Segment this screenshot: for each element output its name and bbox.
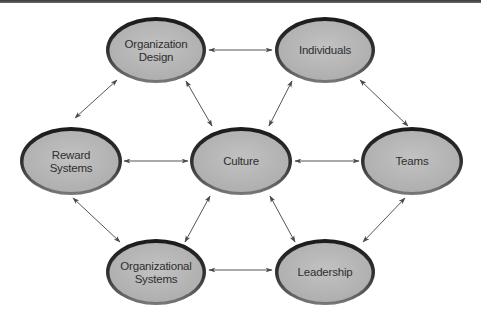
node-label: Teams — [396, 155, 429, 167]
node-label: Culture — [223, 155, 259, 167]
node-label: Systems — [135, 273, 178, 285]
double-arrow-individuals-to-culture — [269, 81, 292, 126]
double-arrow-reward-systems-to-organizational-systems — [73, 198, 120, 242]
node-teams: Teams — [361, 127, 463, 195]
node-culture: Culture — [190, 127, 292, 195]
double-arrow-culture-to-organizational-systems — [185, 196, 210, 242]
double-arrow-individuals-to-teams — [360, 80, 408, 126]
node-label: Organization — [125, 38, 188, 50]
node-reward-systems: RewardSystems — [20, 127, 122, 195]
double-arrow-organization-design-to-culture — [186, 81, 212, 126]
node-organizational-systems: OrganizationalSystems — [106, 239, 206, 305]
node-label: Systems — [50, 162, 93, 174]
node-label: Reward — [52, 149, 90, 161]
node-label: Organizational — [120, 260, 191, 272]
node-individuals: Individuals — [275, 17, 375, 83]
node-label: Design — [139, 51, 174, 63]
node-leadership: Leadership — [275, 239, 375, 305]
node-label: Leadership — [298, 266, 353, 278]
node-label: Individuals — [299, 44, 352, 56]
double-arrow-culture-to-leadership — [270, 196, 295, 242]
node-organization-design: OrganizationDesign — [106, 17, 206, 83]
double-arrow-teams-to-leadership — [363, 198, 405, 242]
double-arrow-organization-design-to-reward-systems — [75, 80, 117, 118]
culture-relationship-diagram: OrganizationDesignIndividualsRewardSyste… — [0, 0, 481, 322]
nodes-layer: OrganizationDesignIndividualsRewardSyste… — [20, 17, 463, 305]
